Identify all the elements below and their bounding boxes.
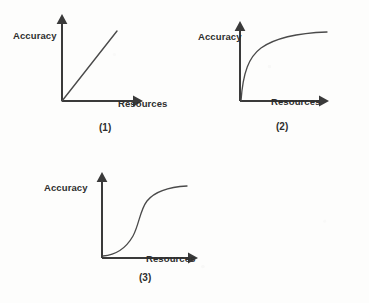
figure-sheet: Accuracy Resources (1) Accuracy Resource…: [0, 0, 369, 303]
figure-1: [55, 12, 185, 112]
figure-1-plot: [55, 12, 185, 112]
figure-3-y-axis-label: Accuracy: [44, 182, 88, 193]
figure-2-x-axis-label: Resources: [271, 96, 320, 107]
data-curve-logarithmic: [241, 32, 327, 101]
figure-1-y-axis-label: Accuracy: [13, 30, 57, 41]
figure-2-caption: (2): [276, 121, 288, 132]
figure-2-y-axis-label: Accuracy: [198, 31, 242, 42]
figure-1-x-axis-label: Resources: [118, 98, 167, 109]
figure-1-caption: (1): [99, 122, 111, 133]
data-curve-linear: [62, 31, 117, 101]
data-curve-sigmoid: [103, 186, 187, 256]
figure-3-x-axis-label: Resources: [146, 253, 195, 264]
figure-3-caption: (3): [139, 272, 151, 283]
